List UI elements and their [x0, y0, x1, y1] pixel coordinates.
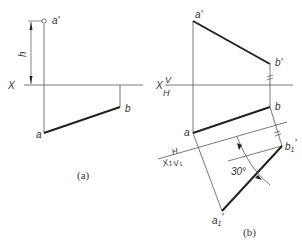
- label-a1-prime: a1': [212, 212, 224, 227]
- tick-mark: [274, 131, 280, 133]
- label-h1: H: [171, 146, 179, 156]
- label-b: b: [125, 103, 131, 114]
- label-x-a: X: [7, 80, 15, 91]
- label-angle: 30°: [231, 166, 246, 177]
- point-a-prime: [42, 19, 46, 23]
- label-a-prime: a': [52, 15, 61, 26]
- label-h: H: [163, 88, 170, 98]
- label-v1: V1: [172, 158, 183, 169]
- caption-a: (a): [77, 169, 90, 182]
- figure-a: a' h X b a (a): [7, 15, 143, 182]
- label-x1: X1: [160, 156, 173, 169]
- label-a-prime-b: a': [195, 9, 204, 20]
- projection-diagram: a' h X b a (a) a' b' X V H b: [0, 0, 302, 244]
- label-x-b: X: [155, 80, 163, 91]
- arrow-up-icon: [30, 22, 33, 30]
- label-h: h: [17, 51, 28, 57]
- label-b-b: b: [275, 101, 281, 112]
- label-b-prime: b': [275, 57, 284, 68]
- line-a1-b1: [222, 146, 282, 211]
- label-a-b: a: [184, 127, 190, 138]
- label-v: V: [165, 75, 172, 85]
- label-b1-prime: b1': [285, 138, 297, 153]
- figure-b: a' b' X V H b a X1 H V1 30° b1' a1' (b): [155, 9, 297, 239]
- caption-b: (b): [243, 226, 256, 239]
- line-a-prime-b-prime: [193, 21, 270, 64]
- label-a: a: [36, 129, 42, 140]
- line-ab-horizontal: [44, 107, 120, 133]
- arrow-down-icon: [30, 76, 33, 84]
- line-ab-b: [193, 107, 270, 133]
- arrow-icon: [255, 175, 262, 180]
